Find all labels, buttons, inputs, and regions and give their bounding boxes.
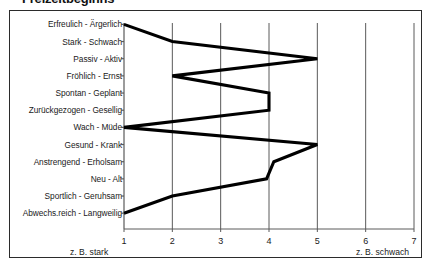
category-label: Erfreulich - Ärgerlich <box>10 20 122 29</box>
x-tick-label: 1 <box>121 236 126 247</box>
x-tick-label: 6 <box>363 236 368 247</box>
category-label: Abwechs.reich - Langweilig <box>10 209 122 218</box>
left-pole-label: z. B. stark <box>70 247 108 257</box>
category-label: Passiv - Aktiv <box>10 54 122 63</box>
chart-root: Freizeitbeginns Erfreulich - ÄrgerlichSt… <box>0 0 429 265</box>
category-label: Zurückgezogen - Gesellig <box>10 106 122 115</box>
category-label: Neu - Alt <box>10 174 122 183</box>
category-label-column: Erfreulich - ÄrgerlichStark - SchwachPas… <box>10 23 122 229</box>
x-tick-label: 2 <box>170 236 175 247</box>
x-tick-label: 5 <box>315 236 320 247</box>
x-tick-label: 3 <box>218 236 223 247</box>
category-label: Fröhlich - Ernst <box>10 71 122 80</box>
page-title: Freizeitbeginns <box>22 0 114 6</box>
x-tick-label: 7 <box>411 236 416 247</box>
category-label: Stark - Schwach <box>10 37 122 46</box>
chart-panel: Erfreulich - ÄrgerlichStark - SchwachPas… <box>9 10 422 258</box>
category-label: Sportlich - Geruhsam <box>10 192 122 201</box>
axis-ticks <box>121 24 414 232</box>
plot-area <box>124 23 414 229</box>
pole-anchors: z. B. stark z. B. schwach <box>10 247 423 259</box>
category-label: Anstrengend - Erholsam <box>10 157 122 166</box>
x-tick-label: 4 <box>266 236 271 247</box>
category-label: Gesund - Krank <box>10 140 122 149</box>
category-label: Spontan - Geplant <box>10 89 122 98</box>
profile-line-chart <box>124 23 414 229</box>
category-label: Wach - Müde <box>10 123 122 132</box>
right-pole-label: z. B. schwach <box>356 247 409 257</box>
